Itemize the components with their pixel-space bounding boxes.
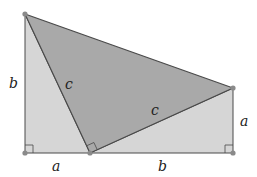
vertex-right-top: [230, 85, 235, 90]
pythagorean-trapezoid-diagram: b a b a c c: [0, 0, 257, 177]
label-hypotenuse-left: c: [65, 76, 73, 92]
label-left-side: b: [9, 75, 18, 91]
label-bottom-right-side: b: [158, 158, 167, 174]
label-hypotenuse-right: c: [151, 102, 159, 118]
vertex-bottom-left: [22, 150, 27, 155]
label-right-side: a: [240, 113, 248, 129]
vertex-bottom-mid: [87, 150, 92, 155]
vertex-bottom-right: [230, 150, 235, 155]
vertex-top-left: [22, 11, 27, 16]
label-bottom-left-side: a: [52, 158, 60, 174]
